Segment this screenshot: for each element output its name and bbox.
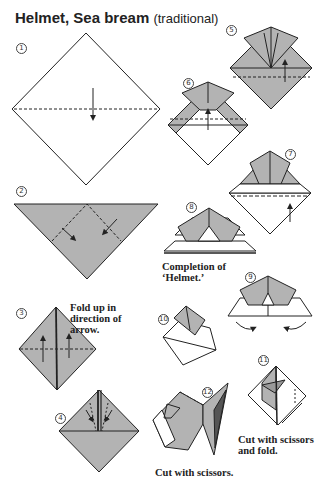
step-5-diagram	[230, 27, 312, 109]
step-number-8: 8	[186, 202, 197, 213]
step-11-caption: Cut with scissors and fold.	[238, 434, 314, 456]
step-8-caption: Completion of ‘Helmet.’	[162, 261, 226, 283]
step-12-caption: Cut with scissors.	[155, 467, 233, 478]
step-1-diagram	[12, 33, 160, 185]
step-6-diagram	[168, 82, 248, 165]
step-11-diagram	[248, 366, 306, 425]
origami-diagrams	[0, 0, 325, 485]
step-number-2: 2	[16, 186, 27, 197]
step-number-11: 11	[258, 355, 269, 366]
step-number-7: 7	[285, 149, 296, 160]
step-9-diagram	[228, 276, 312, 329]
step-12-diagram	[153, 383, 228, 455]
step-number-5: 5	[226, 25, 237, 36]
step-number-6: 6	[183, 78, 194, 89]
step-8-diagram	[164, 208, 256, 253]
step-4-diagram	[59, 390, 139, 472]
step-10-diagram	[163, 306, 216, 365]
step-number-10: 10	[158, 314, 169, 325]
step-3-caption: Fold up in direction of arrow.	[70, 302, 121, 335]
step-number-1: 1	[16, 43, 27, 54]
step-number-12: 12	[202, 387, 213, 398]
step-number-4: 4	[55, 413, 66, 424]
step-number-3: 3	[16, 308, 27, 319]
step-7-diagram	[229, 151, 311, 234]
step-2-diagram	[14, 204, 158, 279]
step-number-9: 9	[245, 272, 256, 283]
